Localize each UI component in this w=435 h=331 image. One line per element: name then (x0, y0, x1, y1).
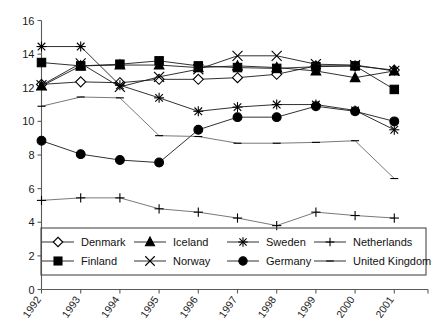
solid-circle-icon (233, 113, 242, 122)
x-tick-label: 1994 (98, 294, 121, 320)
marker-plus (155, 204, 164, 213)
legend-label: Norway (173, 255, 211, 267)
marker-asterisk (115, 80, 125, 90)
solid-circle-icon (194, 125, 203, 134)
marker-solid-circle (239, 257, 247, 265)
y-tick-label: 8 (28, 149, 34, 161)
legend-item-germany[interactable]: Germany (227, 255, 312, 267)
marker-asterisk (233, 102, 243, 112)
legend-label: Denmark (81, 236, 126, 248)
solid-triangle-icon (145, 237, 154, 246)
marker-asterisk (37, 42, 47, 52)
legend-label: Germany (266, 255, 312, 267)
series-sweden (37, 42, 400, 135)
open-diamond-icon (233, 73, 243, 83)
legend-label: United Kingdom (353, 255, 431, 267)
marker-solid-circle (390, 117, 399, 126)
x-tick-label: 1992 (20, 294, 43, 320)
marker-plus (326, 238, 335, 247)
solid-circle-icon (351, 107, 360, 116)
series-layer (37, 42, 400, 231)
line-chart: 0246810121416 19921993199419951996199719… (0, 0, 435, 331)
solid-circle-icon (116, 156, 125, 165)
series-path (42, 198, 395, 226)
chart-canvas: 0246810121416 19921993199419951996199719… (0, 0, 435, 331)
series-path (42, 106, 395, 162)
solid-circle-icon (37, 136, 46, 145)
legend-item-denmark[interactable]: Denmark (42, 236, 126, 248)
marker-open-diamond (53, 237, 63, 247)
marker-solid-circle (116, 156, 125, 165)
marker-asterisk (238, 237, 248, 247)
marker-asterisk (272, 100, 282, 110)
marker-asterisk (154, 93, 164, 103)
marker-solid-circle (351, 107, 360, 116)
chart-legend: DenmarkIcelandSwedenNetherlandsFinlandNo… (41, 228, 431, 275)
marker-asterisk (76, 42, 86, 52)
y-tick-label: 2 (28, 250, 34, 262)
marker-solid-circle (312, 102, 321, 111)
y-tick-label: 12 (22, 82, 34, 94)
x-tick-label: 1998 (255, 294, 278, 320)
marker-plus (351, 211, 360, 220)
marker-solid-circle (155, 158, 164, 167)
solid-square-icon (37, 58, 45, 66)
legend-item-finland[interactable]: Finland (42, 255, 117, 267)
legend-item-iceland[interactable]: Iceland (134, 236, 208, 248)
legend-label: Sweden (266, 236, 306, 248)
x-tick-label: 1999 (294, 294, 317, 320)
y-tick-label: 4 (28, 216, 34, 228)
x-tick-label: 2000 (334, 294, 357, 320)
marker-solid-circle (233, 113, 242, 122)
legend-item-sweden[interactable]: Sweden (227, 236, 306, 248)
marker-open-diamond (193, 74, 203, 84)
legend-item-norway[interactable]: Norway (134, 255, 211, 267)
marker-solid-circle (194, 125, 203, 134)
marker-plus (37, 196, 46, 205)
y-tick-label: 0 (28, 284, 34, 296)
series-netherlands (37, 193, 399, 230)
solid-circle-icon (155, 158, 164, 167)
x-tick-label: 1993 (59, 294, 82, 320)
y-axis: 0246810121416 (22, 15, 41, 296)
marker-solid-square (54, 257, 62, 265)
series-germany (37, 102, 399, 167)
marker-solid-square (37, 58, 45, 66)
legend-label: Finland (81, 255, 117, 267)
marker-asterisk (193, 106, 203, 116)
solid-square-icon (54, 257, 62, 265)
y-tick-label: 16 (22, 15, 34, 27)
x-tick-label: 1995 (138, 294, 161, 320)
marker-solid-square (390, 85, 398, 93)
solid-circle-icon (76, 150, 85, 159)
x-axis: 1992199319941995199619971998199920002001 (20, 290, 428, 320)
marker-open-diamond (233, 73, 243, 83)
series-path (42, 65, 395, 86)
open-diamond-icon (53, 237, 63, 247)
solid-circle-icon (272, 113, 281, 122)
marker-solid-triangle (145, 237, 154, 246)
open-diamond-icon (193, 74, 203, 84)
solid-circle-icon (239, 257, 247, 265)
marker-solid-circle (76, 150, 85, 159)
x-tick-label: 1997 (216, 294, 239, 320)
legend-item-united-kingdom[interactable]: United Kingdom (314, 255, 431, 267)
y-tick-label: 14 (22, 48, 34, 60)
marker-plus (272, 221, 281, 230)
marker-plus (233, 213, 242, 222)
solid-square-icon (390, 85, 398, 93)
marker-plus (115, 193, 124, 202)
x-tick-label: 1996 (177, 294, 200, 320)
y-tick-label: 10 (22, 115, 34, 127)
x-tick-label: 2001 (373, 294, 396, 320)
marker-plus (311, 208, 320, 217)
legend-label: Netherlands (353, 236, 413, 248)
solid-circle-icon (390, 117, 399, 126)
solid-circle-icon (312, 102, 321, 111)
y-tick-label: 6 (28, 183, 34, 195)
legend-item-netherlands[interactable]: Netherlands (314, 236, 413, 248)
marker-solid-circle (37, 136, 46, 145)
legend-label: Iceland (173, 236, 208, 248)
marker-solid-circle (272, 113, 281, 122)
open-diamond-icon (76, 77, 86, 87)
